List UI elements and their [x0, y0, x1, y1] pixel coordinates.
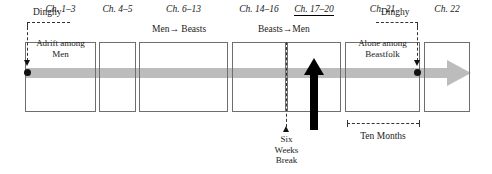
dinghy-dot-right-icon [414, 69, 421, 76]
dinghy-stem-right [417, 27, 418, 61]
dinghy-arrowhead-left-icon [24, 60, 30, 66]
ten-months-label: Ten Months [345, 131, 421, 141]
chapter-box-14-16[interactable] [232, 42, 286, 112]
emphasis-arrow-head-icon [304, 58, 324, 75]
section-header-beasts-to-men: Beasts→Men [258, 24, 310, 34]
chapter-label-6-13: Ch. 6–13 [139, 4, 228, 14]
chapter-box-4-5[interactable] [99, 42, 136, 112]
ten-months-bracket [347, 123, 419, 124]
chapter-box-22[interactable] [424, 42, 470, 112]
section-header-men-to-beasts: Men→ Beasts [152, 24, 206, 34]
six-weeks-line-3: Break [276, 155, 298, 165]
adrift-line-2: Men [52, 49, 69, 59]
chapter-label-4-5: Ch. 4–5 [99, 4, 136, 14]
chapter-sublabel-alone: Alone among Beastfolk [345, 38, 420, 60]
adrift-line-1: Adrift among [36, 38, 85, 48]
ten-months-tick-right [419, 120, 420, 127]
dinghy-label-right: Dinghy [381, 7, 410, 17]
chapter-label-14-16: Ch. 14–16 [232, 4, 286, 14]
chapter-label-17-20: Ch. 17–20 [287, 4, 341, 14]
chapter-box-6-13[interactable] [139, 42, 228, 112]
chapter-label-22: Ch. 22 [424, 4, 470, 14]
alone-line-1: Alone among [358, 38, 407, 48]
six-weeks-break-label: Six Weeks Break [261, 134, 312, 166]
dinghy-stem-left [27, 27, 28, 61]
dinghy-dot-left-icon [24, 69, 31, 76]
dinghy-bracket-right [376, 22, 418, 28]
chapter-sublabel-adrift: Adrift among Men [25, 38, 96, 60]
six-weeks-line-1: Six [280, 134, 292, 144]
emphasis-arrow-shaft [310, 74, 318, 130]
six-weeks-break-divider [286, 42, 287, 127]
six-weeks-break-arrowhead-icon [283, 126, 289, 132]
ten-months-tick-left [347, 120, 348, 127]
six-weeks-line-2: Weeks [275, 145, 299, 155]
chapter-timeline-diagram: Men→ Beasts Beasts→Men Ch. 1–3 Adrift am… [0, 0, 492, 174]
dinghy-label-left: Dinghy [33, 7, 62, 17]
dinghy-bracket-left [27, 22, 70, 28]
alone-line-2: Beastfolk [365, 49, 400, 59]
dinghy-arrowhead-right-icon [414, 60, 420, 66]
chapter-label-17-20-text: Ch. 17–20 [294, 4, 334, 16]
